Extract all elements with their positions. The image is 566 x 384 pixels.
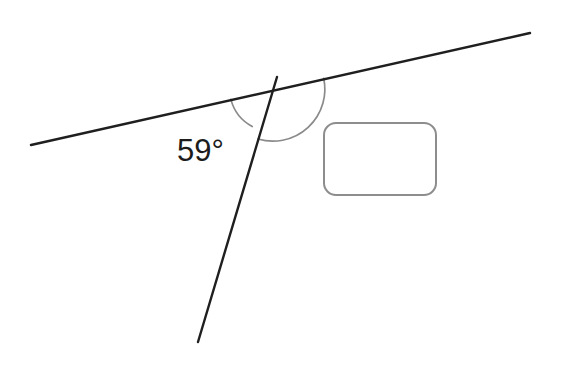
answer-box[interactable] bbox=[323, 122, 437, 196]
angle-label-59: 59° bbox=[177, 135, 224, 166]
steep-line bbox=[198, 77, 277, 342]
marked-angle-arc bbox=[231, 99, 252, 126]
transversal-line bbox=[31, 33, 530, 145]
geometry-canvas bbox=[0, 0, 566, 384]
geometry-diagram: 59° bbox=[0, 0, 566, 384]
